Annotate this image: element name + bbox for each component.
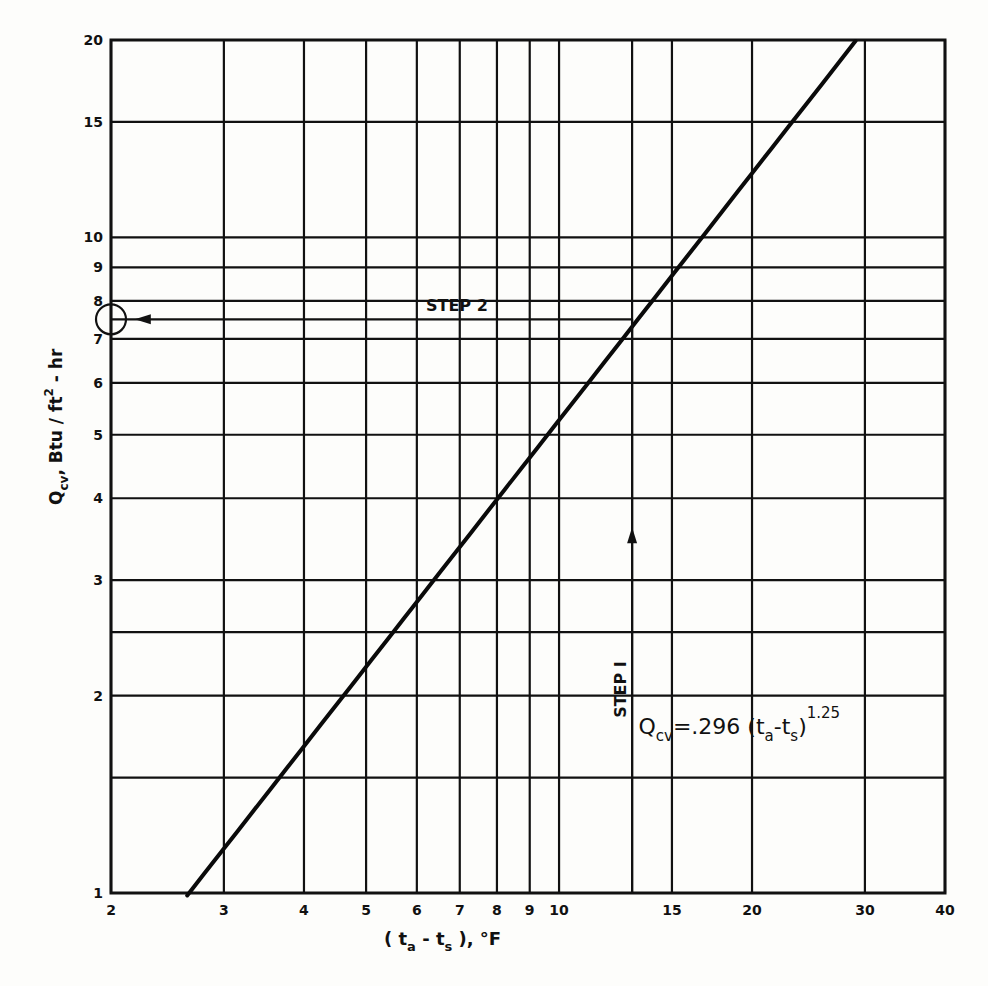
y-tick-label: 3 [93,572,103,588]
y-tick-label: 4 [93,490,103,506]
eq-sub-cv: cv [656,727,673,745]
y-tick-label: 5 [93,427,103,443]
x-tick-label: 3 [219,902,229,918]
x-tick-label: 7 [455,902,465,918]
xlabel-open: ( t [384,928,407,949]
eq-mid: =.296 (t [673,714,765,739]
up-arrow-icon [627,527,637,543]
eq-minus: -t [774,714,791,739]
x-tick-label: 2 [106,902,116,918]
x-tick-labels: 234567891015203040 [106,902,955,918]
ylabel-end: - hr [46,348,66,388]
eq-q: Q [638,714,655,739]
x-tick-label: 5 [361,902,371,918]
eq-close: ) [798,714,807,739]
step2-label: STEP 2 [426,296,488,315]
xlabel-close: ), °F [452,928,501,949]
y-axis-label: Qcv, Btu / ft2 - hr [42,348,71,505]
ylabel-sub: cv [57,475,71,490]
ylabel-sup: 2 [42,388,56,396]
equation-label: Qcv=.296 (ta-ts)1.25 [638,704,840,745]
x-tick-label: 8 [492,902,502,918]
x-tick-label: 40 [935,902,955,918]
x-tick-label: 15 [662,902,681,918]
y-tick-label: 7 [93,331,103,347]
x-tick-label: 10 [549,902,569,918]
y-tick-label: 9 [93,259,103,275]
eq-exponent: 1.25 [807,704,840,722]
ylabel-rest: , Btu / ft [46,396,66,475]
y-tick-label: 6 [93,375,103,391]
eq-sub-s: s [790,727,798,745]
log-log-chart: 234567891015203040 123456789101520 STEP … [0,0,988,986]
x-tick-label: 9 [525,902,535,918]
y-tick-label: 15 [84,114,103,130]
plot-frame [111,40,945,893]
step1-label: STEP I [611,661,630,718]
y-tick-label: 2 [93,688,103,704]
x-axis-label: ( ta - ts ), °F [384,928,501,954]
y-tick-label: 20 [84,32,104,48]
x-tick-label: 30 [855,902,875,918]
xlabel-sub-a: a [407,939,416,954]
q-cv-curve [187,41,855,895]
ylabel-q: Q [46,491,66,505]
x-tick-label: 6 [412,902,422,918]
eq-sub-a: a [765,727,774,745]
y-tick-label: 10 [84,229,104,245]
horizontal-gridlines [111,40,945,893]
left-arrow-icon [135,314,151,324]
y-tick-labels: 123456789101520 [84,32,104,901]
x-tick-label: 4 [299,902,309,918]
x-tick-label: 20 [742,902,762,918]
vertical-gridlines [111,40,945,893]
xlabel-mid: - t [416,928,445,949]
y-tick-label: 1 [93,885,103,901]
